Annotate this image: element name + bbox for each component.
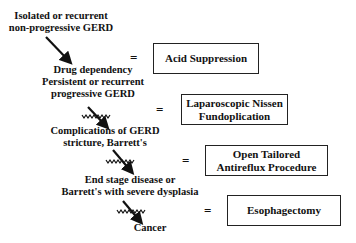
- stage-5-line-1: Cancer: [120, 222, 180, 234]
- treatment-1-line-1: Acid Suppression: [165, 52, 247, 65]
- stage-label-2: Drug dependency Persistent or recurrent …: [38, 64, 148, 100]
- treatment-box-acid-suppression: Acid Suppression: [153, 43, 259, 74]
- stage-label-5: Cancer: [120, 222, 180, 234]
- stage-label-4: End stage disease or Barrett's with seve…: [60, 174, 200, 198]
- treatment-2-line-2: Fundoplication: [186, 110, 283, 123]
- equals-sign-2: =: [156, 104, 163, 116]
- stage-3-line-1: Complications of GERD: [50, 125, 160, 137]
- stage-2-line-3: progressive GERD: [38, 88, 148, 100]
- equals-sign-4: =: [204, 205, 211, 217]
- blocked-arrow-icon: [106, 150, 134, 170]
- stage-1-line-1: Isolated or recurrent: [6, 10, 116, 22]
- treatment-box-laparoscopic-nissen: Laparoscopic Nissen Fundoplication: [181, 94, 288, 125]
- equals-sign-1: =: [130, 52, 137, 64]
- treatment-3-line-1: Open Tailored: [217, 148, 317, 161]
- blocked-arrow-icon: [82, 107, 110, 125]
- arrow-down-right-icon: [46, 37, 68, 60]
- stage-4-line-1: End stage disease or: [60, 174, 200, 186]
- stage-2-line-1: Drug dependency: [38, 64, 148, 76]
- stage-4-line-2: Barrett's with severe dysplasia: [60, 186, 200, 198]
- treatment-4-line-1: Esophagectomy: [247, 204, 321, 217]
- treatment-2-line-1: Laparoscopic Nissen: [186, 97, 283, 110]
- stage-1-line-2: non-progressive GERD: [6, 22, 116, 34]
- stage-label-3: Complications of GERD stricture, Barrett…: [50, 125, 160, 149]
- blocked-arrow-icon: [117, 201, 145, 220]
- treatment-3-line-2: Antireflux Procedure: [217, 161, 317, 174]
- equals-sign-3: =: [182, 155, 189, 167]
- stage-3-line-2: stricture, Barrett's: [50, 137, 160, 149]
- stage-label-1: Isolated or recurrent non-progressive GE…: [6, 10, 116, 34]
- treatment-box-esophagectomy: Esophagectomy: [227, 195, 341, 226]
- treatment-box-open-tailored: Open Tailored Antireflux Procedure: [205, 145, 328, 176]
- stage-2-line-2: Persistent or recurrent: [38, 76, 148, 88]
